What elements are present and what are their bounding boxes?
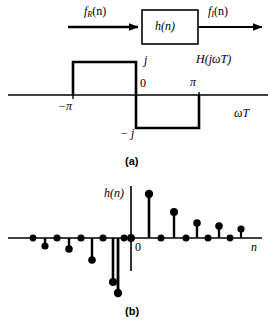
caption-a: (a) bbox=[125, 155, 138, 167]
stem-head-n-1 bbox=[145, 190, 153, 198]
frequency-response-curve-label: H(jωT) bbox=[196, 52, 231, 67]
stem-head-n-minus-7 bbox=[65, 245, 73, 253]
caption-b: (b) bbox=[125, 305, 139, 317]
stems-negative bbox=[41, 235, 127, 286]
stem-head-n-minus-4 bbox=[99, 234, 106, 241]
freq-positive-j-pulse bbox=[73, 62, 136, 95]
impulse-x-axis-label: n bbox=[251, 240, 257, 255]
stem-head-n-3 bbox=[170, 208, 178, 216]
level-negative-j-label: − j bbox=[120, 126, 134, 141]
stem-head-n-minus-8 bbox=[53, 234, 60, 241]
output-signal-label: fI(n) bbox=[208, 4, 228, 19]
freq-tick-label-neg-pi: −π bbox=[58, 99, 72, 114]
hilbert-transformer-figure: fR(n) h(n) fI(n) j H(jωT) 0 π −π ωT − j … bbox=[0, 0, 275, 330]
stem-head-n-6 bbox=[205, 235, 212, 242]
stem-head-n-minus-9 bbox=[41, 242, 48, 249]
freq-x-axis-label: ωT bbox=[234, 106, 249, 121]
stems-positive bbox=[145, 190, 245, 238]
freq-tick-label-pos-pi: π bbox=[190, 75, 196, 90]
stem-head-n-0 bbox=[127, 234, 135, 242]
freq-origin-label: 0 bbox=[140, 76, 146, 91]
stem-head-n-7 bbox=[215, 222, 223, 230]
stem-head-n-5 bbox=[193, 219, 201, 227]
impulse-origin-label: 0 bbox=[135, 240, 141, 255]
stem-head-n-minus-3 bbox=[109, 278, 117, 286]
stem-head-n-minus-10 bbox=[30, 235, 37, 242]
stem-head-n-8 bbox=[227, 235, 234, 242]
impulse-y-axis-label: h(n) bbox=[104, 186, 124, 201]
input-signal-label: fR(n) bbox=[84, 4, 106, 19]
stem-head-n-minus-1 bbox=[114, 289, 122, 297]
block-label: h(n) bbox=[155, 19, 175, 34]
freq-negative-j-pulse bbox=[136, 95, 199, 128]
stem-head-n-minus-6 bbox=[77, 234, 84, 241]
stem-head-n-9 bbox=[237, 225, 244, 232]
frequency-response-group bbox=[8, 62, 268, 128]
stem-head-n-4 bbox=[183, 235, 190, 242]
stem-head-n-2 bbox=[158, 235, 165, 242]
level-positive-j-label: j bbox=[144, 53, 147, 68]
stem-head-n-minus-2 bbox=[121, 235, 128, 242]
stem-head-n-minus-5 bbox=[88, 256, 96, 264]
